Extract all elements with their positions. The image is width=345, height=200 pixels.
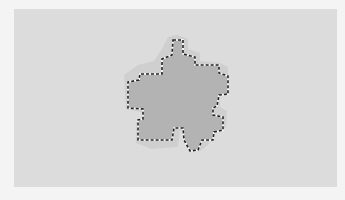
selection-layer: [14, 9, 337, 187]
image-canvas[interactable]: [14, 9, 337, 187]
